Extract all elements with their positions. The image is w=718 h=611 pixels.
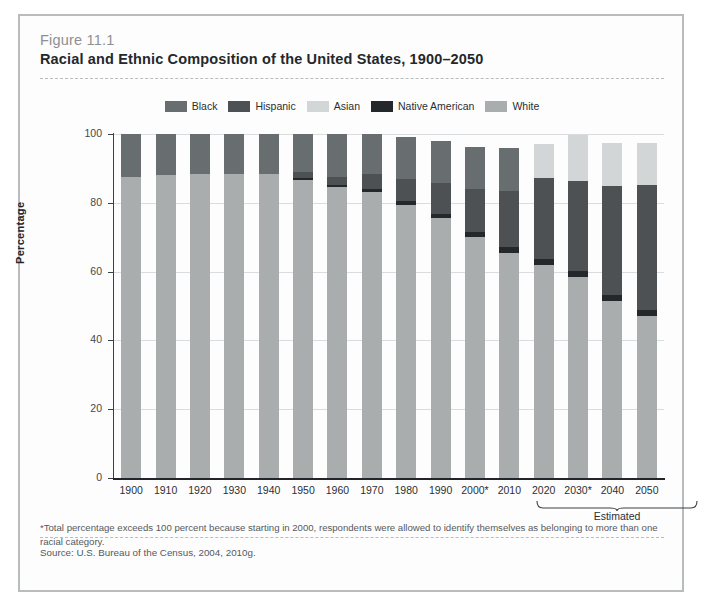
legend-swatch-icon — [371, 101, 393, 112]
bar-segment-white — [396, 205, 416, 478]
y-tick-label: 40 — [68, 333, 102, 345]
bar-segment-asian — [568, 135, 588, 181]
legend-item-label: Asian — [334, 100, 360, 112]
bar-segment-hispanic — [396, 179, 416, 201]
figure-footnote: *Total percentage exceeds 100 percent be… — [40, 521, 660, 549]
bar-segment-hispanic — [362, 174, 382, 189]
bar-segment-native-american — [465, 232, 485, 237]
bar-segment-white — [568, 277, 588, 478]
legend-item-label: Black — [192, 100, 218, 112]
y-axis-label: Percentage — [14, 202, 26, 264]
bar-segment-black — [259, 134, 279, 174]
y-tick-label: 20 — [68, 402, 102, 414]
bar-segment-black — [465, 147, 485, 189]
y-tick-mark — [108, 478, 113, 479]
bar-segment-black — [499, 148, 519, 191]
x-tick-label: 2050 — [624, 484, 670, 496]
bar-column — [121, 134, 141, 478]
bar-segment-hispanic — [637, 185, 657, 311]
bar-column — [499, 134, 519, 478]
bar-segment-white — [534, 265, 554, 478]
legend-swatch-icon — [485, 101, 507, 112]
figure-number: Figure 11.1 — [40, 32, 114, 48]
y-tick-mark — [108, 409, 113, 410]
bar-segment-native-american — [568, 271, 588, 277]
bar-column — [602, 134, 622, 478]
bar-segment-native-american — [327, 185, 347, 188]
y-tick-mark — [108, 203, 113, 204]
bar-segment-asian — [602, 143, 622, 186]
bar-segment-native-american — [499, 247, 519, 253]
bar-segment-white — [602, 301, 622, 478]
y-tick-mark — [108, 340, 113, 341]
bar-column — [568, 134, 588, 478]
bar-column — [534, 134, 554, 478]
y-tick-label: 0 — [68, 471, 102, 483]
x-axis-line — [113, 478, 665, 480]
figure-frame: Figure 11.1 Racial and Ethnic Compositio… — [18, 14, 684, 592]
bar-segment-hispanic — [293, 172, 313, 178]
bar-column — [224, 134, 244, 478]
bar-segment-hispanic — [568, 181, 588, 270]
bar-column — [362, 134, 382, 478]
bar-segment-native-american — [602, 295, 622, 301]
bar-segment-hispanic — [431, 183, 451, 214]
divider-bottom — [40, 537, 664, 538]
bar-segment-black — [156, 134, 176, 175]
chart-legend: BlackHispanicAsianNative AmericanWhite — [40, 100, 664, 112]
bar-segment-native-american — [396, 201, 416, 204]
legend-item-label: Hispanic — [255, 100, 295, 112]
legend-item-label: White — [512, 100, 539, 112]
bar-segment-black — [327, 134, 347, 177]
bar-segment-native-american — [293, 178, 313, 180]
bar-segment-white — [362, 192, 382, 478]
figure-title: Racial and Ethnic Composition of the Uni… — [40, 51, 483, 67]
bar-column — [327, 134, 347, 478]
bar-segment-black — [431, 141, 451, 183]
bar-segment-asian — [637, 143, 657, 184]
legend-item-black: Black — [165, 100, 218, 112]
bar-segment-black — [362, 134, 382, 174]
bar-segment-native-american — [534, 259, 554, 265]
bar-segment-white — [259, 174, 279, 478]
bar-segment-native-american — [431, 214, 451, 218]
y-tick-label: 80 — [68, 196, 102, 208]
legend-item-asian: Asian — [307, 100, 360, 112]
divider-top — [40, 78, 664, 79]
bar-segment-white — [327, 187, 347, 478]
bar-segment-white — [637, 316, 657, 478]
y-tick-mark — [108, 272, 113, 273]
bar-segment-white — [293, 180, 313, 478]
bar-column — [156, 134, 176, 478]
bar-segment-black — [224, 134, 244, 174]
y-tick-mark — [108, 134, 113, 135]
bar-column — [259, 134, 279, 478]
bar-segment-white — [121, 177, 141, 478]
legend-swatch-icon — [228, 101, 250, 112]
bar-column — [465, 134, 485, 478]
y-tick-label: 100 — [68, 127, 102, 139]
bar-column — [190, 134, 210, 478]
bar-segment-black — [190, 134, 210, 174]
bar-segment-white — [431, 218, 451, 478]
legend-item-hispanic: Hispanic — [228, 100, 295, 112]
legend-swatch-icon — [307, 101, 329, 112]
bar-segment-white — [224, 174, 244, 478]
bar-column — [431, 134, 451, 478]
plot-area — [114, 134, 664, 478]
figure-source: Source: U.S. Bureau of the Census, 2004,… — [40, 547, 660, 558]
legend-item-white: White — [485, 100, 539, 112]
bar-segment-black — [121, 134, 141, 177]
bar-segment-native-american — [362, 189, 382, 192]
bar-column — [293, 134, 313, 478]
bar-segment-hispanic — [327, 177, 347, 185]
y-tick-label: 60 — [68, 265, 102, 277]
bar-column — [637, 134, 657, 478]
bar-segment-white — [465, 237, 485, 478]
bar-column — [396, 134, 416, 478]
legend-item-native-american: Native American — [371, 100, 474, 112]
bar-segment-black — [293, 134, 313, 172]
bar-segment-hispanic — [499, 191, 519, 247]
bar-segment-hispanic — [465, 189, 485, 232]
bar-segment-white — [190, 174, 210, 478]
